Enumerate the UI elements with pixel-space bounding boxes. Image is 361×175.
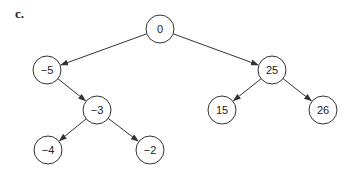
- edge-arrow: [173, 34, 258, 65]
- tree-svg: 0−525−31526−4−2: [0, 0, 361, 175]
- figure-label: c.: [15, 6, 24, 22]
- binary-tree-diagram: c. 0−525−31526−4−2: [0, 0, 361, 175]
- tree-edges: [58, 34, 311, 141]
- node-value: 26: [317, 104, 329, 116]
- tree-node: −3: [83, 96, 111, 124]
- edge-arrow: [234, 79, 261, 101]
- node-value: 25: [266, 64, 278, 76]
- edge-arrow: [283, 79, 311, 101]
- tree-node: −5: [33, 56, 61, 84]
- node-value: 15: [216, 104, 228, 116]
- tree-node: 0: [146, 15, 174, 43]
- edge-arrow: [61, 34, 147, 65]
- tree-node: 26: [309, 96, 337, 124]
- tree-node: −4: [34, 136, 62, 164]
- tree-node: 15: [208, 96, 236, 124]
- tree-node: 25: [258, 56, 286, 84]
- node-value: −4: [42, 144, 55, 156]
- tree-nodes: 0−525−31526−4−2: [33, 15, 337, 164]
- node-value: 0: [157, 23, 163, 35]
- node-value: −5: [41, 64, 54, 76]
- node-value: −2: [144, 144, 157, 156]
- node-value: −3: [91, 104, 104, 116]
- tree-node: −2: [136, 136, 164, 164]
- edge-arrow: [108, 118, 138, 141]
- edge-arrow: [60, 119, 87, 141]
- edge-arrow: [58, 79, 85, 101]
